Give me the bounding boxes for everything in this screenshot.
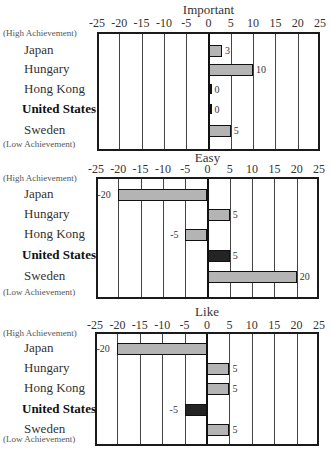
bar-sweden [209,125,231,137]
row-label-sweden: Sweden [24,268,65,284]
row-label-japan: Japan [24,186,54,202]
bar-value-label: -20 [97,189,110,200]
bar-value-label: 5 [232,363,237,374]
gridline [229,334,230,444]
gridline [142,34,143,149]
bar-united-states [208,104,212,114]
row-label-sweden: Sweden [24,122,65,138]
gridline [298,34,299,149]
bar-value-label: 5 [234,125,239,136]
bar-value-label: -5 [170,229,178,240]
bar-united-states [185,404,207,416]
row-label-hungary: Hungary [24,360,70,376]
bar-value-label: 20 [300,271,310,282]
row-label-united-states: United States [22,247,96,263]
low-achievement-label: (Low Achievement) [3,139,75,149]
row-label-hong-kong: Hong Kong [24,81,85,97]
gridline [253,34,254,149]
x-tick-label: 25 [305,16,331,31]
bar-hungary [208,209,230,221]
bar-sweden [208,271,297,283]
bar-value-label: 5 [233,209,238,220]
high-achievement-label: (High Achievement) [3,328,77,338]
gridline [186,34,187,149]
gridline [252,334,253,444]
bar-value-label: 5 [232,424,237,435]
row-label-hong-kong: Hong Kong [24,226,85,242]
bar-value-label: 0 [215,84,220,95]
bar-value-label: 3 [225,45,230,56]
row-label-united-states: United States [22,401,96,417]
bar-japan [209,45,222,57]
high-achievement-label: (High Achievement) [3,28,77,38]
bar-value-label: -5 [170,404,178,415]
bar-japan [117,343,207,355]
gridline [231,34,232,149]
x-tick-label: 25 [304,162,331,177]
bar-sweden [207,424,229,436]
row-label-united-states: United States [22,101,96,117]
bar-hong-kong [207,383,229,395]
row-label-japan: Japan [24,42,54,58]
high-achievement-label: (High Achievement) [3,173,77,183]
gridline [275,34,276,149]
row-label-hungary: Hungary [24,61,70,77]
gridline [274,334,275,444]
bar-value-label: 10 [256,64,266,75]
bar-japan [118,189,207,201]
bar-united-states [208,250,230,262]
x-tick-label: 25 [304,318,331,333]
bar-value-label: -20 [96,343,109,354]
bar-value-label: 0 [215,104,220,115]
low-achievement-label: (Low Achievement) [3,287,75,297]
bar-hong-kong [208,84,212,94]
gridline [119,34,120,149]
gridline [297,334,298,444]
gridline [297,179,298,297]
row-label-hong-kong: Hong Kong [24,380,85,396]
bar-hong-kong [185,229,207,241]
row-label-japan: Japan [24,340,54,356]
row-label-sweden: Sweden [24,421,65,437]
bar-hungary [209,64,254,76]
gridline [164,34,165,149]
row-label-hungary: Hungary [24,206,70,222]
bar-value-label: 5 [233,250,238,261]
bar-value-label: 5 [232,383,237,394]
bar-hungary [207,363,229,375]
